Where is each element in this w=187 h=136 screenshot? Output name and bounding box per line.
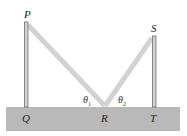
label-r: R [101,113,108,124]
angle-theta2: θ2 [118,95,126,107]
label-t: T [150,113,156,124]
label-s: S [151,23,157,34]
label-p: P [24,9,31,20]
angle-theta1: θ1 [83,95,91,107]
rope-segment-rs [105,38,152,106]
rope-segment-pr [28,25,105,106]
label-q: Q [22,113,30,124]
pole-st [153,36,157,107]
pole-pq [25,22,29,107]
